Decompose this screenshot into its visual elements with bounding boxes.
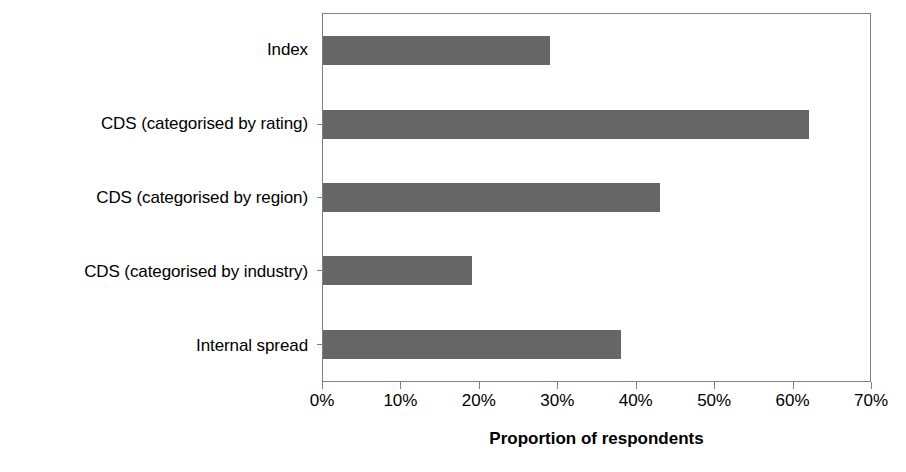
bar-band	[323, 87, 870, 160]
bar-cds-region	[323, 183, 660, 212]
bar-band	[323, 308, 870, 381]
bar-band	[323, 14, 870, 87]
x-axis-tick	[636, 382, 637, 389]
x-axis-tick-label: 70%	[854, 392, 888, 409]
bar-series	[323, 14, 870, 381]
category-label: CDS (categorised by rating)	[0, 87, 315, 161]
x-axis-tick-label: 0%	[310, 392, 335, 409]
x-axis-tick-label: 40%	[619, 392, 653, 409]
x-axis-tick	[714, 382, 715, 389]
category-axis-labels: Index CDS (categorised by rating) CDS (c…	[0, 13, 315, 382]
x-axis-title: Proportion of respondents	[322, 430, 871, 447]
bar-index	[323, 36, 550, 65]
x-axis-tick	[557, 382, 558, 389]
x-axis-tick	[400, 382, 401, 389]
x-axis-tick	[322, 382, 323, 389]
x-axis-tick	[793, 382, 794, 389]
bar-band	[323, 161, 870, 234]
category-label: CDS (categorised by industry)	[0, 234, 315, 308]
bar-band	[323, 234, 870, 307]
y-axis-tick	[317, 344, 324, 345]
x-axis-tick	[479, 382, 480, 389]
bar-chart: Index CDS (categorised by rating) CDS (c…	[0, 0, 906, 472]
y-axis-tick	[317, 124, 324, 125]
x-axis-tick-label: 30%	[540, 392, 574, 409]
bar-internal-spread	[323, 330, 621, 359]
x-axis-tick-label: 50%	[697, 392, 731, 409]
bar-cds-industry	[323, 256, 472, 285]
plot-area	[322, 13, 871, 382]
x-axis-tick-label: 10%	[383, 392, 417, 409]
x-axis-tick	[871, 382, 872, 389]
y-axis-tick	[317, 270, 324, 271]
category-label: CDS (categorised by region)	[0, 161, 315, 235]
x-axis-tick-label: 20%	[462, 392, 496, 409]
bar-cds-rating	[323, 110, 809, 139]
category-label: Index	[0, 13, 315, 87]
y-axis-tick	[317, 197, 324, 198]
x-axis-tick-label: 60%	[776, 392, 810, 409]
category-label: Internal spread	[0, 308, 315, 382]
